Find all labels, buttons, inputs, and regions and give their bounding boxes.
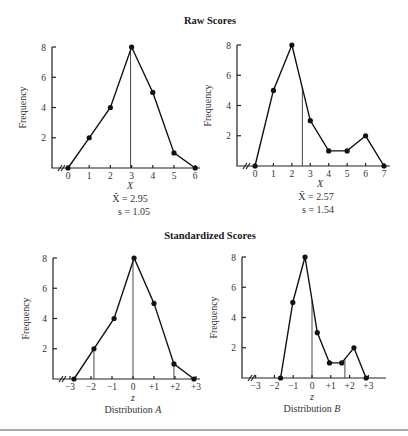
data-point: [191, 376, 196, 381]
y-tick-label: 8: [226, 41, 231, 51]
x-tick-label: +3: [191, 382, 201, 392]
data-point: [345, 148, 350, 153]
x-tick-label: +2: [345, 381, 355, 391]
data-point: [364, 375, 369, 380]
z-b-xlabel: z: [309, 391, 314, 402]
y-tick-label: 4: [41, 103, 46, 113]
axes: [53, 258, 200, 379]
data-point: [289, 42, 294, 47]
frequency-polygon: [281, 257, 367, 378]
data-point: [171, 150, 176, 155]
z-a-chart: 2468Frequency−3−2−10+1+2+3: [20, 254, 201, 393]
x-tick-label: 0: [131, 382, 136, 392]
y-axis-label: Frequency: [17, 86, 28, 128]
data-point: [87, 135, 92, 140]
data-point: [150, 90, 155, 95]
x-tick-label: −1: [288, 381, 298, 391]
raw-a-xlabel: X: [126, 180, 134, 191]
data-point: [363, 133, 368, 138]
figure: Raw Scores Standardized Scores 2468Frequ…: [0, 0, 408, 436]
raw-a-mean: X̄ = 2.95: [112, 193, 147, 204]
x-tick-label: 0: [66, 171, 71, 181]
x-tick-label: 4: [150, 171, 155, 181]
y-tick-label: 2: [42, 344, 47, 354]
y-tick-label: 6: [231, 283, 236, 293]
x-tick-label: 6: [193, 171, 198, 181]
y-tick-label: 8: [42, 254, 47, 264]
x-tick-label: 0: [310, 381, 315, 391]
data-point: [326, 148, 331, 153]
z-b-chart: 2468Frequency−3−2−10+1+2+3: [208, 253, 386, 392]
y-tick-label: 8: [41, 43, 46, 53]
raw-b-chart: 2468Frequency01234567: [202, 41, 390, 180]
data-point: [193, 165, 198, 170]
raw-b-sd: s = 1.54: [302, 204, 334, 215]
standardized-scores-title: Standardized Scores: [164, 230, 256, 241]
y-axis-label: Frequency: [20, 297, 31, 339]
data-point: [171, 361, 176, 366]
data-point: [65, 165, 70, 170]
x-tick-label: 4: [326, 169, 331, 179]
y-tick-label: 4: [231, 313, 236, 323]
y-axis-label: Frequency: [208, 296, 219, 338]
data-point: [278, 375, 283, 380]
x-tick-label: 2: [289, 169, 294, 179]
data-point: [131, 255, 136, 260]
x-tick-label: −3: [251, 381, 261, 391]
raw-a-sd: s = 1.05: [118, 206, 150, 217]
x-tick-label: 5: [345, 169, 350, 179]
x-tick-label: +1: [149, 382, 159, 392]
data-point: [252, 163, 257, 168]
x-tick-label: 6: [363, 169, 368, 179]
data-point: [308, 118, 313, 123]
y-tick-label: 6: [41, 73, 46, 83]
y-tick-label: 2: [226, 131, 231, 141]
x-tick-label: −1: [107, 382, 117, 392]
x-tick-label: 1: [271, 169, 276, 179]
raw-b-xlabel: X: [316, 178, 324, 189]
z-a-xlabel: z: [130, 392, 135, 403]
frequency-polygon: [255, 45, 384, 166]
y-tick-label: 6: [226, 71, 231, 81]
y-tick-label: 2: [41, 133, 46, 143]
data-point: [339, 360, 344, 365]
x-tick-label: +1: [326, 381, 336, 391]
x-tick-label: +2: [170, 382, 180, 392]
y-tick-label: 4: [42, 314, 47, 324]
data-point: [271, 88, 276, 93]
x-tick-label: −2: [86, 382, 96, 392]
y-tick-label: 4: [226, 101, 231, 111]
data-point: [315, 330, 320, 335]
x-tick-label: +3: [363, 381, 373, 391]
data-point: [381, 163, 386, 168]
data-point: [327, 360, 332, 365]
y-tick-label: 8: [231, 253, 236, 263]
axes: [242, 257, 386, 378]
x-tick-label: 3: [308, 169, 313, 179]
x-tick-label: −3: [65, 382, 75, 392]
data-point: [108, 105, 113, 110]
x-tick-label: 1: [87, 171, 92, 181]
x-tick-label: 5: [172, 171, 177, 181]
frequency-polygon: [74, 258, 194, 379]
data-point: [151, 301, 156, 306]
axes: [52, 47, 200, 168]
x-tick-label: −2: [269, 381, 279, 391]
data-point: [290, 300, 295, 305]
data-point: [302, 254, 307, 259]
data-point: [129, 44, 134, 49]
y-tick-label: 2: [231, 343, 236, 353]
raw-a-chart: 2468Frequency0123456: [17, 43, 200, 182]
dist-a-label: Distribution A: [105, 404, 163, 415]
data-point: [112, 316, 117, 321]
x-tick-label: 7: [382, 169, 387, 179]
raw-scores-title: Raw Scores: [184, 15, 236, 26]
dist-b-label: Distribution B: [284, 403, 341, 414]
data-point: [351, 345, 356, 350]
data-point: [91, 346, 96, 351]
raw-b-mean: X̄ = 2.57: [298, 191, 333, 202]
frequency-polygon: [68, 47, 195, 168]
x-tick-label: 2: [108, 171, 113, 181]
y-axis-label: Frequency: [202, 84, 213, 126]
data-point: [71, 376, 76, 381]
